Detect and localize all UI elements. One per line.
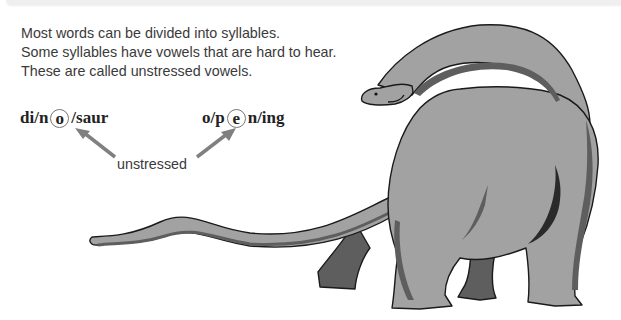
arrow-to-o-icon [75, 128, 115, 157]
arrow-to-e-icon [197, 128, 236, 157]
illustration-layer [0, 0, 621, 320]
dinosaur-illustration [90, 25, 598, 309]
